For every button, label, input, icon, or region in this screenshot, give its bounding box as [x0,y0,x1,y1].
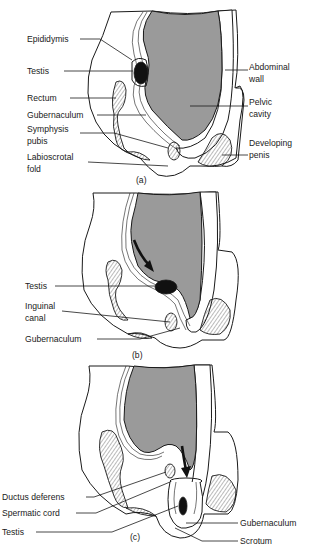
label-gubernaculum: Gubernaculum [25,334,81,344]
label-abdominal-wall-line1: Abdominal [249,62,290,72]
symphysis-pubis-shape [165,464,175,478]
label-rectum: Rectum [27,93,57,103]
testicular-descent-diagram: (a) Epididymis Testis Rectum Gubernaculu… [0,0,321,558]
symphysis-pubis-shape [168,142,180,160]
testis-shape [134,62,148,84]
label-testis: Testis [27,66,49,76]
label-pelvic-cavity-line2: cavity [249,109,272,119]
label-inguinal-canal-line2: canal [25,313,46,323]
label-pelvic-cavity-line1: Pelvic [249,97,273,107]
label-symphysis-pubis-line1: Symphysis [27,124,69,134]
label-symphysis-pubis-line2: pubis [27,136,48,146]
panel-a-caption: (a) [136,175,147,185]
label-developing-penis-line1: Developing [249,138,292,148]
panel-b-caption: (b) [132,350,143,360]
label-spermatic-cord: Spermatic cord [2,508,60,518]
label-ductus-deferens: Ductus deferens [2,492,65,502]
label-labioscrotal-fold-line2: fold [27,164,41,174]
label-inguinal-canal-line1: Inguinal [25,301,55,311]
label-abdominal-wall-line2: wall [248,74,264,84]
panel-c-caption: (c) [130,532,140,542]
label-labioscrotal-fold-line1: Labioscrotal [27,152,73,162]
label-scrotum: Scrotum [240,536,272,546]
label-testis: Testis [25,281,47,291]
label-gubernaculum: Gubernaculum [27,110,83,120]
panel-b: (b) Testis Inguinal canal Gubernaculum [25,192,238,360]
label-developing-penis-line2: penis [249,150,270,160]
label-gubernaculum: Gubernaculum [240,518,296,528]
label-testis: Testis [2,527,24,537]
panel-c: (c) Ductus deferens Spermatic cord Testi… [2,365,296,546]
testis-shape [155,280,177,294]
label-epididymis: Epididymis [27,34,69,44]
panel-a: (a) Epididymis Testis Rectum Gubernaculu… [27,10,292,185]
testis-shape [179,497,187,515]
